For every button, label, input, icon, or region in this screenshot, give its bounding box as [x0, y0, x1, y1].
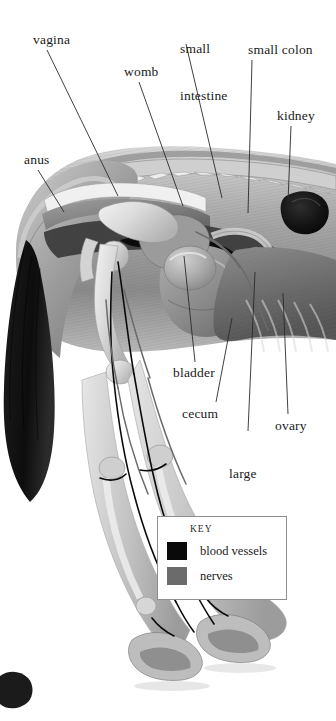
key-item-nerves: nerves [167, 567, 233, 585]
label-small-colon: small colon [248, 42, 313, 57]
bladder-organ [164, 246, 216, 290]
label-anus: anus [24, 152, 50, 167]
label-small-intestine-line2: intestine [180, 88, 228, 104]
label-ovary: ovary [275, 418, 307, 433]
key-swatch-nerves [167, 567, 187, 585]
label-kidney: kidney [277, 108, 315, 123]
key-swatch-blood-vessels [167, 542, 187, 560]
key-title: KEY [190, 524, 213, 534]
label-cecum: cecum [182, 406, 218, 421]
far-hoof-dark [0, 672, 33, 709]
label-bladder: bladder [173, 365, 215, 380]
key-label-nerves: nerves [200, 569, 233, 584]
key-label-blood-vessels: blood vessels [200, 544, 267, 559]
label-small-intestine-line1: small [180, 41, 228, 57]
label-large-colon-line1: large [229, 466, 260, 482]
label-womb: womb [124, 64, 159, 79]
key-item-blood-vessels: blood vessels [167, 542, 267, 560]
label-small-intestine: small intestine [180, 10, 228, 134]
label-vagina: vagina [33, 32, 70, 47]
anatomy-figure: vagina small intestine small colon womb … [0, 0, 336, 721]
key-legend: KEY blood vessels nerves [157, 516, 287, 600]
